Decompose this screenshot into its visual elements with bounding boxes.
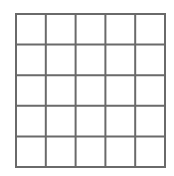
grid-lines [15, 13, 166, 168]
grid-diagram [15, 13, 166, 168]
